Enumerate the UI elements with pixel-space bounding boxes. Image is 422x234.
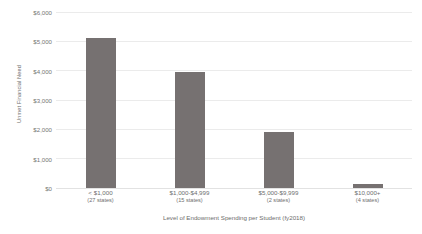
y-axis-tick-label: $6,000 [33,9,52,16]
y-axis-tick-label: $0 [45,185,52,192]
category-sublabel: (2 states) [234,197,323,204]
y-axis-tick-label: $5,000 [33,38,52,45]
category-sublabel: (4 states) [323,197,412,204]
x-axis-tick-label: $1,000-$4,999(15 states) [145,189,234,204]
category-label: $10,000+ [323,189,412,197]
y-axis-tick-label: $3,000 [33,97,52,104]
x-axis-tick-labels: < $1,000(27 states)$1,000-$4,999(15 stat… [56,189,412,211]
x-axis-tick-label: < $1,000(27 states) [56,189,145,204]
y-axis-title-label: Unmet Financial Need [16,65,22,123]
x-axis-tick-label: $10,000+(4 states) [323,189,412,204]
category-label: $5,000-$9,999 [234,189,323,197]
bar [175,72,205,188]
bar [264,132,294,188]
category-label: $1,000-$4,999 [145,189,234,197]
bar [86,38,116,188]
y-axis-tick-label: $2,000 [33,126,52,133]
y-axis-tick-labels: $0$1,000$2,000$3,000$4,000$5,000$6,000 [24,0,52,188]
bar [353,184,383,188]
plot-area [56,0,412,188]
category-label: < $1,000 [56,189,145,197]
bar-chart-figure: Unmet Financial Need $0$1,000$2,000$3,00… [0,0,422,234]
bar-series [56,0,412,188]
category-sublabel: (27 states) [56,197,145,204]
y-axis-tick-label: $4,000 [33,67,52,74]
x-axis-tick-label: $5,000-$9,999(2 states) [234,189,323,204]
x-axis-title: Level of Endowment Spending per Student … [56,214,412,221]
y-axis-tick-label: $1,000 [33,155,52,162]
category-sublabel: (15 states) [145,197,234,204]
